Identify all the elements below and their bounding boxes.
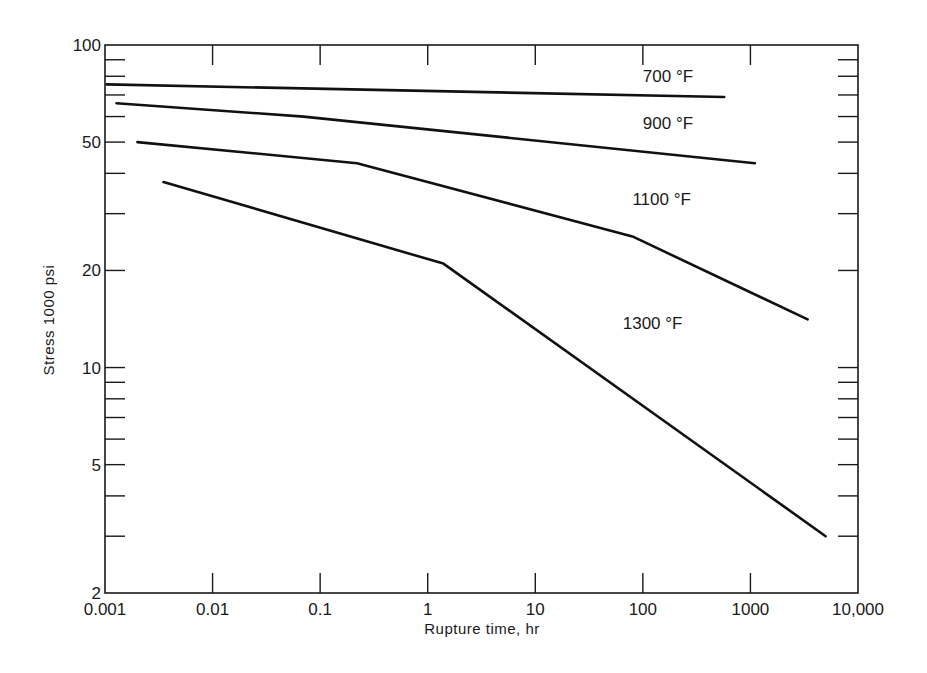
x-tick-label: 0.01	[196, 600, 229, 619]
series-labels: 700 °F900 °F1100 °F1300 °F	[623, 67, 693, 333]
y-tick-label: 50	[82, 133, 101, 152]
x-tick-label: 10,000	[832, 600, 884, 619]
curve-900f	[117, 103, 755, 163]
curve-1100f	[137, 142, 807, 319]
y-tick-label: 20	[82, 261, 101, 280]
y-tick-label: 5	[92, 456, 101, 475]
x-axis-tick-labels: 0.0010.010.1110100100010,000	[84, 600, 884, 619]
curve-1300f	[164, 182, 826, 536]
series-label-700f: 700 °F	[643, 67, 693, 86]
series-label-1100f: 1100 °F	[632, 190, 690, 209]
x-tick-label: 0.1	[308, 600, 332, 619]
series-curves	[107, 84, 826, 536]
stress-rupture-chart: 0.0010.010.1110100100010,000 10050201052…	[0, 0, 927, 673]
y-axis-tick-labels: 10050201052	[73, 36, 101, 603]
x-tick-label: 100	[629, 600, 657, 619]
x-tick-label: 1	[423, 600, 432, 619]
y-tick-label: 100	[73, 36, 101, 55]
y-axis-ticks-left	[105, 60, 125, 536]
x-tick-label: 1000	[732, 600, 770, 619]
series-label-1300f: 1300 °F	[623, 314, 683, 333]
x-tick-label: 0.001	[84, 600, 127, 619]
y-tick-label: 2	[92, 584, 101, 603]
y-tick-label: 10	[82, 359, 101, 378]
y-axis-ticks-right	[838, 60, 858, 536]
x-tick-label: 10	[526, 600, 545, 619]
curve-700f	[107, 84, 724, 97]
x-axis-title: Rupture time, hr	[424, 620, 540, 637]
series-label-900f: 900 °F	[643, 114, 693, 133]
plot-frame	[105, 45, 858, 593]
y-axis-title: Stress 1000 psi	[40, 265, 57, 376]
